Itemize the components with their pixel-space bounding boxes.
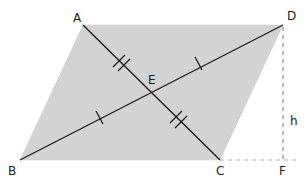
label-B: B: [8, 164, 16, 178]
label-A: A: [73, 11, 82, 25]
label-E: E: [148, 73, 156, 87]
parallelogram-diagram: A D E B C F h: [0, 0, 308, 180]
label-height-h: h: [290, 114, 298, 128]
label-D: D: [287, 9, 296, 23]
label-F: F: [279, 164, 286, 178]
label-C: C: [216, 164, 224, 178]
